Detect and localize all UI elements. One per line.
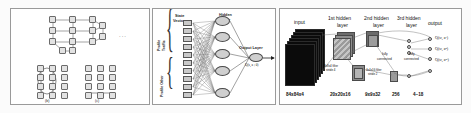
- fully-connected-2-line2: connected: [404, 58, 419, 62]
- topology-node: [99, 22, 106, 29]
- panel-a-topology: ··· (b) (c): [10, 8, 150, 105]
- grid-node: [37, 92, 44, 99]
- input-unit: [183, 20, 192, 26]
- grid-node: [37, 74, 44, 81]
- figure-container: ··· (b) (c): [0, 0, 471, 113]
- output-neuron: [249, 53, 263, 62]
- input-unit: [183, 44, 192, 50]
- input-unit: [183, 60, 192, 66]
- output-layer-label: Output Layer: [239, 47, 263, 51]
- panel-a-edges: [11, 9, 150, 105]
- grid-node: [85, 65, 92, 72]
- topology-node: [69, 27, 76, 34]
- grid-node: [97, 92, 104, 99]
- panel-c-cnn: input 1st hidden layer 2nd hidden layer …: [279, 8, 462, 105]
- panel-a-ellipsis: ···: [119, 33, 127, 39]
- grid-node: [61, 65, 68, 72]
- grid-node: [109, 65, 116, 72]
- input-unit: [183, 36, 192, 42]
- hidden-neuron: [215, 88, 230, 98]
- topology-node: [99, 33, 106, 40]
- panel-a-caption-c: (c): [95, 99, 99, 103]
- topology-node: [69, 16, 76, 23]
- topology-node: [49, 16, 56, 23]
- brace-traffic-profile: {: [166, 8, 174, 53]
- panel-b-mlp: State Vector s Hidden Layer Output Layer…: [152, 8, 276, 105]
- group-label-traffic-line1: Traffic: [162, 40, 166, 51]
- topology-node: [89, 27, 96, 34]
- grid-node: [61, 83, 68, 90]
- q-output-1: Q(sₜ, a¹): [435, 35, 448, 40]
- dimension-label-fc: 256: [392, 92, 400, 97]
- topology-node: [89, 16, 96, 23]
- filter1-label-line2: stride 4: [326, 69, 335, 72]
- dimension-label-conv2: 9x9x32: [365, 92, 380, 97]
- grid-node: [49, 83, 56, 90]
- input-unit: [183, 52, 192, 58]
- input-unit: [183, 68, 192, 74]
- panel-a-caption-b: (b): [45, 99, 49, 103]
- grid-node: [85, 83, 92, 90]
- grid-node: [61, 92, 68, 99]
- group-label-traffic-line2: Profile: [157, 40, 161, 51]
- input-unit: [183, 76, 192, 82]
- input-unit: [183, 84, 192, 90]
- hidden-neuron: [215, 32, 230, 42]
- grid-node: [109, 74, 116, 81]
- grid-node: [49, 74, 56, 81]
- hidden-neuron: [215, 16, 230, 26]
- grid-node: [61, 74, 68, 81]
- topology-node: [69, 38, 76, 45]
- group-label-profile-other: Profile Other: [160, 75, 164, 97]
- dimension-label-input: 84x84x4: [286, 92, 304, 97]
- q-output-2: Q(sₜ, a²): [435, 46, 448, 51]
- input-unit: [183, 28, 192, 34]
- grid-node: [97, 83, 104, 90]
- topology-node: [89, 38, 96, 45]
- output-equation: Q(s, a ; θ): [245, 63, 259, 67]
- topology-node: [49, 27, 56, 34]
- filter2-label-line2: stride 2: [368, 73, 377, 76]
- grid-node: [49, 92, 56, 99]
- dimension-label-output: 4~18: [413, 92, 423, 97]
- dimension-label-conv1: 20x20x16: [330, 92, 350, 97]
- grid-node: [85, 74, 92, 81]
- topology-node: [69, 47, 76, 54]
- grid-node: [37, 83, 44, 90]
- topology-node: [59, 47, 66, 54]
- grid-node: [97, 74, 104, 81]
- grid-node: [109, 92, 116, 99]
- grid-node: [109, 83, 116, 90]
- q-output-m: Q(sₜ, aᵐ): [435, 57, 449, 62]
- input-unit: [183, 92, 192, 98]
- fully-connected-1-line2: connected: [377, 58, 392, 62]
- topology-node: [49, 38, 56, 45]
- grid-node: [85, 92, 92, 99]
- grid-node: [49, 65, 56, 72]
- brace-profile-other: {: [166, 52, 174, 90]
- grid-node: [97, 65, 104, 72]
- hidden-neuron: [215, 66, 230, 76]
- grid-node: [37, 65, 44, 72]
- hidden-neuron: [215, 49, 230, 59]
